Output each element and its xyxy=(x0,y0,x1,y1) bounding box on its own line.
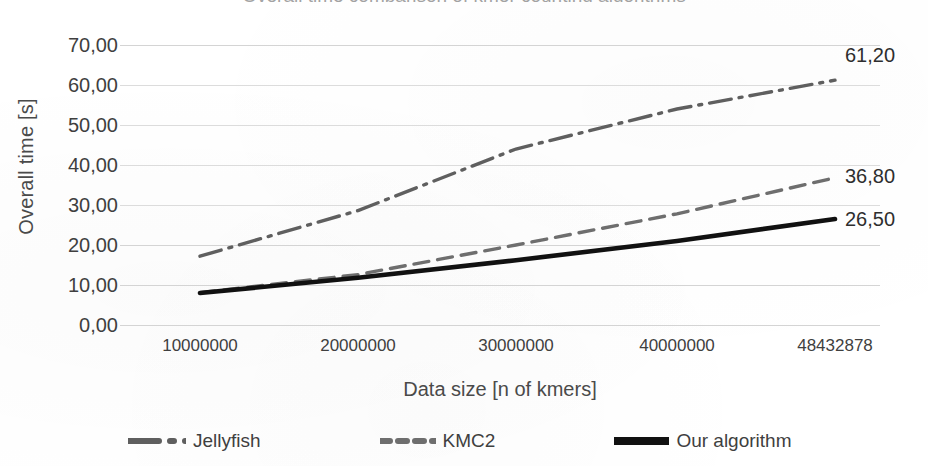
legend-label: Our algorithm xyxy=(676,430,791,452)
x-axis-tick-labels: 10000000 20000000 30000000 40000000 4843… xyxy=(120,336,880,362)
legend-item-our-algorithm[interactable]: Our algorithm xyxy=(613,430,791,452)
x-tick-label: 30000000 xyxy=(478,336,554,356)
y-tick-label: 60,00 xyxy=(18,75,118,95)
chart-legend: Jellyfish KMC2 Our algorithm xyxy=(0,424,928,458)
y-tick-label: 50,00 xyxy=(18,115,118,135)
series-canvas xyxy=(120,0,880,340)
legend-item-jellyfish[interactable]: Jellyfish xyxy=(128,430,261,452)
x-tick-label: 20000000 xyxy=(320,336,396,356)
y-tick-label: 10,00 xyxy=(18,275,118,295)
legend-label: Jellyfish xyxy=(193,430,261,452)
y-tick-label: 40,00 xyxy=(18,155,118,175)
y-tick-label: 20,00 xyxy=(18,235,118,255)
x-axis-title: Data size [n of kmers] xyxy=(120,378,880,401)
data-label-jellyfish: 61,20 xyxy=(845,44,895,67)
data-label-kmc2: 36,80 xyxy=(845,165,895,188)
series-line-jellyfish xyxy=(200,80,835,256)
plot-area xyxy=(120,45,880,325)
legend-label: KMC2 xyxy=(443,430,496,452)
y-tick-label: 70,00 xyxy=(18,35,118,55)
legend-item-kmc2[interactable]: KMC2 xyxy=(380,430,496,452)
y-tick-label: 0,00 xyxy=(18,315,118,335)
x-tick-label: 40000000 xyxy=(639,336,715,356)
line-chart: Overall time comparison of kmer counting… xyxy=(0,0,928,466)
x-tick-label: 48432878 xyxy=(797,336,873,356)
series-line-kmc2 xyxy=(200,178,835,293)
y-tick-label: 30,00 xyxy=(18,195,118,215)
dash-dot-line-key xyxy=(128,435,186,447)
data-label-our-algorithm: 26,50 xyxy=(845,208,895,231)
x-tick-label: 10000000 xyxy=(162,336,238,356)
dashed-line-key xyxy=(380,435,436,447)
solid-line-key xyxy=(613,435,669,447)
